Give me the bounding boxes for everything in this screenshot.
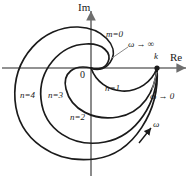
imaginary-axis-label: Im xyxy=(78,2,90,13)
k-point-label: k xyxy=(154,52,158,61)
locus-label-n1: n=1 xyxy=(105,84,120,93)
omega-zero-label: ω → 0 xyxy=(150,92,174,101)
locus-label-n2: n=2 xyxy=(70,113,85,122)
locus-label-n4: n=4 xyxy=(20,91,35,100)
omega-direction-label: ω xyxy=(153,120,159,129)
locus-n1 xyxy=(91,68,157,91)
locus-label-n3: n=3 xyxy=(48,91,63,100)
k-point-marker xyxy=(154,65,159,70)
origin-label: 0 xyxy=(80,70,85,80)
nyquist-plot-figure: Im Re 0 k m=0 ω → ∞ ω → 0 ω n=1 n=2 n=3 … xyxy=(0,0,193,180)
omega-infinity-label: ω → ∞ xyxy=(128,40,154,49)
real-axis-label: Re xyxy=(170,52,182,63)
m-parameter-label: m=0 xyxy=(106,30,123,39)
omega-infinity-leader-line xyxy=(112,47,128,58)
